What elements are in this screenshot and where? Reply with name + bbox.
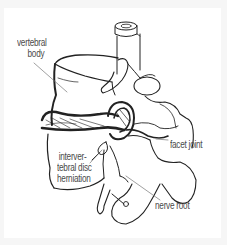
intervertebral-disc [42, 102, 134, 139]
label-text: tebral disc [57, 162, 92, 173]
label-nerve-root: nerve root [155, 200, 189, 211]
label-text: herniation [57, 173, 92, 184]
label-facet-joint: facet joint [170, 139, 202, 150]
label-text: interver- [57, 151, 92, 162]
label-text: vertebral [17, 37, 47, 48]
label-text: body [17, 48, 47, 59]
label-vertebral-body: vertebral body [17, 37, 47, 59]
label-disc-herniation: interver- tebral disc herniation [57, 151, 92, 184]
